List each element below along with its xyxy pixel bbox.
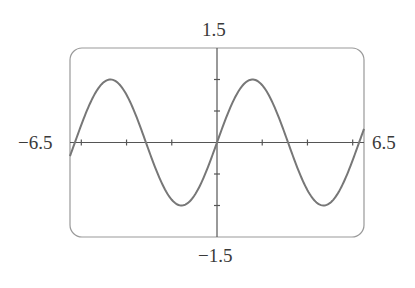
plot-area	[0, 0, 415, 288]
